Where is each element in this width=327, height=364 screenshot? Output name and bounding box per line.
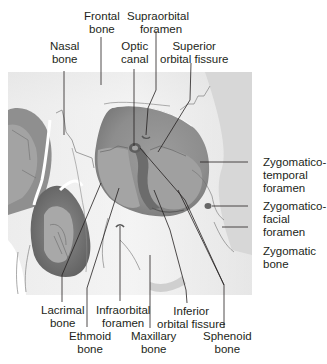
label-line: Superior — [160, 40, 228, 53]
label-nasal-bone: Nasal bone — [50, 40, 79, 66]
label-line: temporal — [263, 169, 326, 182]
label-line: Zygomatico- — [263, 200, 326, 213]
label-superior-orbital-fissure: Superior orbital fissure — [160, 40, 228, 66]
label-line: Optic — [121, 40, 149, 53]
label-line: foramen — [263, 182, 326, 195]
label-line: bone — [41, 317, 84, 330]
label-line: Frontal — [84, 10, 120, 23]
label-supraorbital-foramen: Supraorbital foramen — [127, 10, 189, 36]
label-zygomatic-bone: Zygomatic bone — [263, 245, 316, 271]
label-line: bone — [50, 53, 79, 66]
label-lacrimal-bone: Lacrimal bone — [41, 304, 84, 330]
label-line: bone — [69, 343, 111, 356]
label-line: foramen — [96, 317, 150, 330]
label-sphenoid-bone: Sphenoid bone — [203, 330, 252, 356]
label-line: bone — [203, 343, 252, 356]
label-inferior-orbital-fissure: Inferior orbital fissure — [157, 305, 225, 331]
label-line: Maxillary — [131, 330, 176, 343]
label-infraorbital-foramen: Infraorbital foramen — [96, 304, 150, 330]
label-line: Inferior — [157, 305, 225, 318]
label-line: Zygomatico- — [263, 156, 326, 169]
label-line: Supraorbital — [127, 10, 189, 23]
label-line: foramen — [263, 226, 326, 239]
label-line: bone — [263, 258, 316, 271]
label-line: Zygomatic — [263, 245, 316, 258]
label-line: facial — [263, 213, 326, 226]
label-line: bone — [84, 23, 120, 36]
label-line: Lacrimal — [41, 304, 84, 317]
label-line: bone — [131, 343, 176, 356]
label-line: orbital fissure — [160, 53, 228, 66]
label-ethmoid-bone: Ethmoid bone — [69, 330, 111, 356]
label-line: foramen — [127, 23, 189, 36]
label-frontal-bone: Frontal bone — [84, 10, 120, 36]
zygomaticofacial-foramen-mark — [205, 203, 212, 209]
label-zygomaticotemporal-foramen: Zygomatico- temporal foramen — [263, 156, 326, 195]
label-line: canal — [121, 53, 149, 66]
label-line: Ethmoid — [69, 330, 111, 343]
label-line: Sphenoid — [203, 330, 252, 343]
label-optic-canal: Optic canal — [121, 40, 149, 66]
orbit-bones-diagram: Frontal bone Supraorbital foramen Nasal … — [0, 0, 327, 364]
label-zygomaticofacial-foramen: Zygomatico- facial foramen — [263, 200, 326, 239]
label-line: Nasal — [50, 40, 79, 53]
label-line: Infraorbital — [96, 304, 150, 317]
label-maxillary-bone: Maxillary bone — [131, 330, 176, 356]
